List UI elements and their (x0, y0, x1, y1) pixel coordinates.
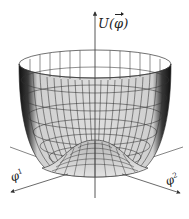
u-axis-label: U(φ) (98, 17, 128, 30)
potential-surface-plot (0, 0, 189, 219)
u-func-symbol: U (98, 16, 109, 31)
mexican-hat-potential-diagram: U(φ) φ1 φ2 (0, 0, 189, 219)
u-close-paren: ) (123, 16, 128, 31)
u-vector-phi: φ (114, 17, 123, 30)
